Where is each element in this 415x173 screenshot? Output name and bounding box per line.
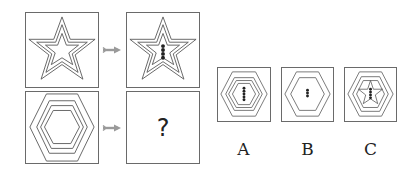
question-mark: ? bbox=[127, 114, 199, 142]
star-nested-icon bbox=[26, 13, 98, 87]
arrow-right-icon bbox=[102, 124, 124, 132]
hexagon-dots-icon bbox=[282, 68, 333, 121]
arrow-right-icon bbox=[102, 46, 124, 54]
option-a-label: A bbox=[217, 139, 270, 159]
hexagon-dots-icon bbox=[218, 68, 270, 121]
option-b-label: B bbox=[281, 139, 334, 159]
option-a-figure[interactable] bbox=[217, 67, 271, 122]
figure-unknown: ? bbox=[126, 91, 200, 164]
option-c-figure[interactable] bbox=[344, 67, 397, 122]
figure-star-nested-dots bbox=[126, 12, 200, 88]
figure-star-nested bbox=[25, 12, 99, 88]
option-b-figure[interactable] bbox=[281, 67, 334, 122]
option-c-label: C bbox=[344, 139, 397, 159]
hexagon-star-dots-icon bbox=[345, 68, 396, 121]
star-nested-dots-icon bbox=[127, 13, 199, 87]
hexagon-nested-icon bbox=[26, 92, 98, 163]
figure-hexagon-nested bbox=[25, 91, 99, 164]
